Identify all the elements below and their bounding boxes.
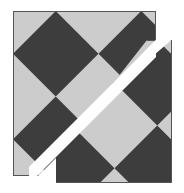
figure-root: Two overlapping argyle-patterned square …	[0, 0, 184, 193]
argyle-tiles-figure: Two overlapping argyle-patterned square …	[0, 0, 184, 193]
